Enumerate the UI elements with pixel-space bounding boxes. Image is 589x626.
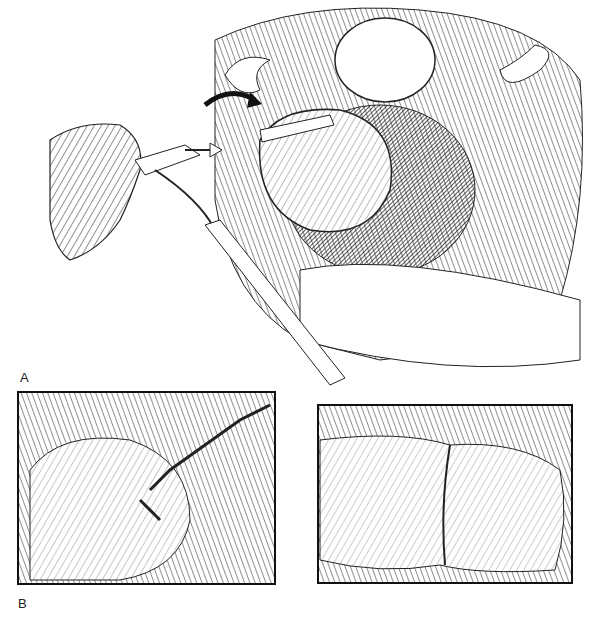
- panel-b-left: [18, 392, 275, 584]
- panel-label-a: A: [20, 370, 29, 385]
- medical-illustration: [0, 0, 589, 626]
- panel-b-right: [318, 405, 572, 583]
- panel-a-field: [215, 8, 583, 367]
- panel-label-b: B: [18, 596, 27, 611]
